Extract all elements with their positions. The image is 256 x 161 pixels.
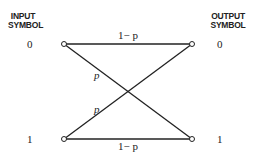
input-node-0 bbox=[62, 42, 67, 47]
output-node-1 bbox=[190, 137, 195, 142]
edge-label-0-0: 1− p bbox=[118, 29, 138, 41]
edge-label-1-0: p bbox=[94, 103, 100, 115]
output-node-0 bbox=[190, 42, 195, 47]
edge-label-1-0-text: p bbox=[94, 103, 100, 115]
input-node-1 bbox=[62, 137, 67, 142]
edge-label-0-1: p bbox=[94, 69, 100, 81]
edge-label-0-0-text: 1− p bbox=[118, 29, 138, 41]
channel-diagram bbox=[0, 0, 256, 161]
edge-label-1-1: 1− p bbox=[118, 140, 138, 152]
edge-label-0-1-text: p bbox=[94, 69, 100, 81]
edge-label-1-1-text: 1− p bbox=[118, 140, 138, 152]
